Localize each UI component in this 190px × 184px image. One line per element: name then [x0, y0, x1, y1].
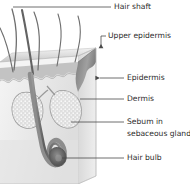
label-dermis: Dermis: [127, 94, 154, 103]
label-group: Hair shaft Upper epidermis Epidermis Der…: [108, 2, 190, 162]
diagram-canvas: Hair shaft Upper epidermis Epidermis Der…: [0, 0, 190, 184]
label-sebaceous-gland: sebaceous gland: [127, 129, 190, 138]
label-upper-epidermis: Upper epidermis: [108, 31, 171, 40]
label-hair-bulb: Hair bulb: [127, 153, 162, 162]
leader-upper-epidermis-arrow: [99, 44, 104, 48]
label-hair-shaft: Hair shaft: [114, 2, 151, 11]
hair-bulb-papilla: [55, 154, 61, 161]
label-epidermis: Epidermis: [127, 73, 165, 82]
label-sebum-in: Sebum in: [127, 117, 163, 126]
leader-epidermis-arrow: [95, 76, 100, 81]
skin-anatomy-diagram: Hair shaft Upper epidermis Epidermis Der…: [0, 0, 190, 184]
dermis-shading: [0, 140, 78, 184]
